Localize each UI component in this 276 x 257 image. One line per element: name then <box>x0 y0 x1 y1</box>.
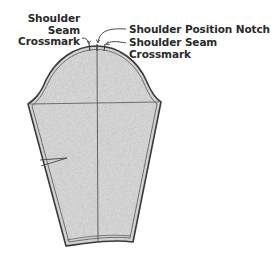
right-crossmark-label-line2: Crossmark <box>129 49 217 61</box>
position-notch-leader <box>98 29 126 42</box>
left-crossmark-label-line3: Crossmark <box>10 36 80 48</box>
leader-lines <box>82 29 126 45</box>
left-crossmark-label: Shoulder Seam Crossmark <box>10 13 80 48</box>
left-crossmark-label-line1: Shoulder <box>10 13 80 25</box>
right-crossmark-label-line1: Shoulder Seam <box>129 37 217 49</box>
position-notch-label: Shoulder Position Notch <box>129 24 270 36</box>
right-crossmark-leader <box>106 42 126 44</box>
right-crossmark-label: Shoulder Seam Crossmark <box>129 37 217 60</box>
